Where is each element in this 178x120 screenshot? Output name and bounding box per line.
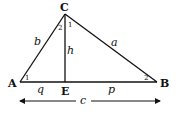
angle-label-c1: 1 bbox=[68, 21, 72, 29]
angle-label-a1: 1 bbox=[25, 74, 29, 82]
triangle-diagram: C A B E b a h q p c 1 2 2 1 bbox=[0, 0, 178, 120]
vertex-label-a: A bbox=[7, 77, 17, 90]
vertex-label-e: E bbox=[61, 85, 69, 98]
side-label-b: b bbox=[34, 35, 41, 48]
side-label-a: a bbox=[111, 36, 118, 49]
vertex-label-b: B bbox=[160, 77, 169, 90]
vertex-label-c: C bbox=[60, 1, 69, 14]
side-label-h: h bbox=[67, 44, 74, 57]
side-label-c: c bbox=[80, 94, 86, 107]
side-label-q: q bbox=[37, 83, 44, 96]
angle-label-c2: 2 bbox=[58, 24, 62, 32]
side-label-p: p bbox=[108, 83, 115, 96]
angle-label-b2: 2 bbox=[144, 74, 148, 82]
